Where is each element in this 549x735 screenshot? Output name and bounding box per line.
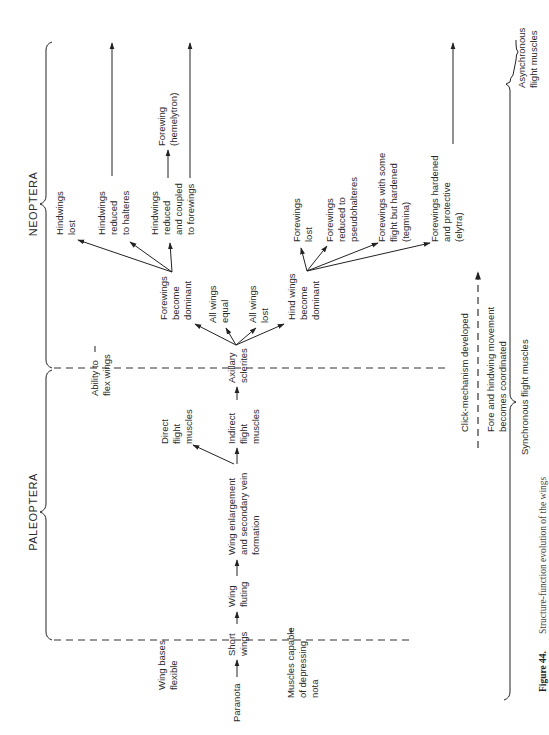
svg-text:and secondary vein: and secondary vein xyxy=(238,473,249,555)
wing-enlargement-label: Wing enlargement and secondary vein form… xyxy=(226,473,261,555)
neoptera-brace xyxy=(40,42,52,368)
hindwings-dominant-label: Hind wings become dominant xyxy=(286,273,321,320)
svg-text:fluting: fluting xyxy=(238,582,249,607)
forewings-lost-label: Forewings lost xyxy=(291,198,314,242)
click-mechanism-label: Click-mechanism developed xyxy=(459,313,470,432)
svg-text:Forewings: Forewings xyxy=(291,198,302,242)
svg-text:to halteres: to halteres xyxy=(120,190,131,235)
indirect-flight-muscles-label: Indirect flight muscles xyxy=(226,409,261,444)
svg-text:lost: lost xyxy=(259,308,270,323)
wing-evolution-diagram: NEOPTERA PALEOPTERA Wing bases flexible … xyxy=(0,0,549,735)
arrow-to-hindwings-dominant xyxy=(236,324,284,345)
svg-text:reduced to: reduced to xyxy=(336,197,347,242)
svg-text:flex wings: flex wings xyxy=(101,354,112,396)
hindwings-coupled-label: Hindwings reduced and coupled to forewin… xyxy=(149,183,196,235)
forewings-pseudohalteres-label: Forewings reduced to pseudohalteres xyxy=(324,177,359,242)
svg-text:pseudohalteres: pseudohalteres xyxy=(348,177,359,242)
wing-bases-flexible-label: Wing bases flexible xyxy=(156,640,179,690)
svg-text:Forewing: Forewing xyxy=(156,107,167,146)
svg-text:Fore and hindwing movement: Fore and hindwing movement xyxy=(485,306,496,432)
svg-text:(hemelytron): (hemelytron) xyxy=(168,93,179,146)
svg-text:flight muscles: flight muscles xyxy=(528,30,539,88)
fore-hind-coordinated-label: Fore and hindwing movement becomes coord… xyxy=(485,306,508,432)
all-wings-equal-label: All wings equal xyxy=(207,285,230,323)
svg-text:muscles: muscles xyxy=(183,409,194,444)
svg-text:and protective: and protective xyxy=(441,182,452,242)
svg-text:Ability to: Ability to xyxy=(89,360,100,396)
forewing-hemelytron-label: Forewing (hemelytron) xyxy=(156,93,179,146)
svg-text:dominant: dominant xyxy=(182,281,193,320)
asynchronous-label: Asynchronous flight muscles xyxy=(516,28,539,88)
svg-text:flexible: flexible xyxy=(168,660,179,690)
svg-text:Forewings hardened: Forewings hardened xyxy=(429,155,440,242)
svg-text:sclerites: sclerites xyxy=(238,348,249,383)
axillary-sclerites-label: Axillary sclerites xyxy=(226,348,249,383)
figure-caption: Figure 44. Structure-function evolution … xyxy=(538,476,548,692)
wing-fluting-label: Wing fluting xyxy=(226,582,249,607)
svg-text:wings: wings xyxy=(238,631,249,657)
short-wings-label: Short wings xyxy=(226,631,249,657)
hindwings-halteres-label: Hindwings reduced to halteres xyxy=(96,190,131,235)
svg-text:reduced: reduced xyxy=(108,201,119,235)
figure-number: Figure 44. xyxy=(538,651,548,692)
neoptera-label: NEOPTERA xyxy=(27,172,39,237)
svg-text:Muscles capable: Muscles capable xyxy=(285,627,296,698)
hindwings-lost-label: Hindwings lost xyxy=(54,191,77,235)
svg-text:dominant: dominant xyxy=(310,281,321,320)
svg-text:to forewings: to forewings xyxy=(185,184,196,235)
svg-text:Hind wings: Hind wings xyxy=(286,273,297,320)
svg-text:Wing bases: Wing bases xyxy=(156,640,167,690)
arrow-to-hindwings-lost xyxy=(78,240,172,272)
svg-text:and coupled: and coupled xyxy=(173,183,184,235)
ability-to-flex-wings-label: Ability to flex wings xyxy=(89,346,112,396)
svg-text:Asynchronous: Asynchronous xyxy=(516,28,527,88)
arrow-enlargement-direct xyxy=(193,445,234,464)
synchronous-label: Synchronous flight muscles xyxy=(519,339,530,455)
muscles-depressing-nota-label: Muscles capable of depressing nota xyxy=(285,627,320,698)
direct-flight-muscles-label: Direct flight muscles xyxy=(159,409,194,444)
forewings-dominant-label: Forewings become dominant xyxy=(158,276,193,320)
svg-text:equal: equal xyxy=(219,300,230,323)
arrow-to-forewings-lost xyxy=(301,248,307,271)
svg-text:flight but hardened: flight but hardened xyxy=(388,163,399,242)
arrow-to-all-wings-lost xyxy=(236,328,256,345)
svg-text:(tegmina): (tegmina) xyxy=(400,202,411,242)
paranota-label: Paranota xyxy=(231,683,242,722)
forewings-tegmina-label: Forewings with some flight but hardened … xyxy=(376,153,411,242)
all-wings-lost-label: All wings lost xyxy=(247,285,270,323)
paleoptera-brace xyxy=(40,370,52,640)
svg-text:Indirect: Indirect xyxy=(226,412,237,444)
svg-text:reduced: reduced xyxy=(161,201,172,235)
svg-text:Wing enlargement: Wing enlargement xyxy=(226,478,237,555)
svg-text:All wings: All wings xyxy=(247,285,258,323)
svg-text:formation: formation xyxy=(250,515,261,555)
svg-text:Wing: Wing xyxy=(226,585,237,607)
svg-text:lost: lost xyxy=(303,227,314,242)
svg-text:lost: lost xyxy=(66,220,77,235)
svg-text:All wings: All wings xyxy=(207,285,218,323)
svg-text:Direct: Direct xyxy=(159,419,170,444)
svg-text:muscles: muscles xyxy=(250,409,261,444)
svg-text:becomes coordinated: becomes coordinated xyxy=(497,341,508,432)
figure-caption-text: Structure-function evolution of the wing… xyxy=(538,476,548,634)
svg-text:Short: Short xyxy=(226,633,237,656)
svg-text:(elytra): (elytra) xyxy=(453,212,464,242)
svg-text:of depressing: of depressing xyxy=(297,641,308,698)
svg-text:Hindwings: Hindwings xyxy=(96,191,107,235)
svg-text:Hindwings: Hindwings xyxy=(149,191,160,235)
svg-text:Forewings: Forewings xyxy=(324,198,335,242)
svg-text:nota: nota xyxy=(309,679,320,698)
svg-text:Forewings: Forewings xyxy=(158,276,169,320)
arrow-to-hindwings-halteres xyxy=(130,242,172,272)
svg-text:become: become xyxy=(170,286,181,320)
svg-text:Hindwings: Hindwings xyxy=(54,191,65,235)
svg-text:flight: flight xyxy=(238,424,249,444)
svg-text:become: become xyxy=(298,286,309,320)
svg-text:flight: flight xyxy=(171,424,182,444)
svg-text:Axillary: Axillary xyxy=(226,352,237,383)
forewings-elytra-label: Forewings hardened and protective (elytr… xyxy=(429,155,464,242)
arrow-to-hindwings-coupled xyxy=(170,243,172,272)
svg-text:Forewings with some: Forewings with some xyxy=(376,153,387,242)
paleoptera-label: PALEOPTERA xyxy=(27,473,39,551)
